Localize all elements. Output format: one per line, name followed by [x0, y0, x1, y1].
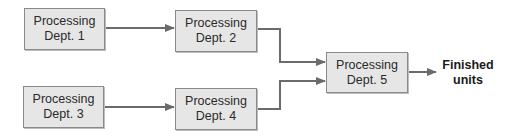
node-label-line2: Dept. 1	[44, 29, 84, 44]
node-processing-dept-5: Processing Dept. 5	[326, 52, 408, 93]
output-label-line1: Finished	[440, 58, 496, 73]
node-label-line1: Processing	[336, 58, 398, 73]
node-processing-dept-1: Processing Dept. 1	[24, 8, 105, 50]
output-finished-units: Finished units	[440, 58, 496, 88]
node-label-line2: Dept. 5	[347, 73, 387, 88]
node-processing-dept-2: Processing Dept. 2	[175, 10, 257, 52]
arrow-d4-to-d5	[257, 81, 325, 109]
node-label-line1: Processing	[33, 92, 95, 107]
arrow-d2-to-d5	[257, 29, 325, 62]
node-label-line2: Dept. 3	[43, 107, 83, 122]
node-label-line2: Dept. 2	[196, 31, 236, 46]
node-label-line1: Processing	[185, 16, 247, 31]
output-label-line2: units	[440, 73, 496, 88]
node-processing-dept-4: Processing Dept. 4	[175, 88, 257, 130]
node-processing-dept-3: Processing Dept. 3	[23, 86, 104, 128]
node-label-line2: Dept. 4	[196, 109, 236, 124]
node-label-line1: Processing	[185, 94, 247, 109]
node-label-line1: Processing	[34, 14, 96, 29]
